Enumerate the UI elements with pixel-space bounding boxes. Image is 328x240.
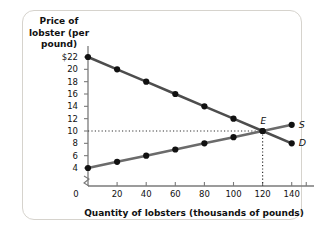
data-point-D <box>85 54 91 60</box>
data-point-S <box>230 134 236 140</box>
x-tick-label: 40 <box>134 190 158 199</box>
data-point-D <box>201 103 207 109</box>
data-point-D <box>172 91 178 97</box>
curve-label-D: D <box>299 137 306 148</box>
x-tick-label: 120 <box>251 190 275 199</box>
data-point-S <box>85 165 91 171</box>
origin-label: 0 <box>64 190 88 199</box>
x-tick-label: 100 <box>222 190 246 199</box>
y-tick-label: 6 <box>48 152 78 161</box>
data-point-S <box>143 153 149 159</box>
y-tick-label: 20 <box>48 65 78 74</box>
y-tick-label: 4 <box>48 164 78 173</box>
y-tick-label: 18 <box>48 78 78 87</box>
data-point-S <box>201 140 207 146</box>
y-tick-label: 12 <box>48 115 78 124</box>
data-point-D <box>289 140 295 146</box>
data-point-S <box>114 159 120 165</box>
data-point-D <box>143 79 149 85</box>
y-tick-label: 16 <box>48 90 78 99</box>
x-tick-label: 80 <box>192 190 216 199</box>
curve-label-S: S <box>299 119 305 130</box>
equilibrium-label: E <box>261 116 267 126</box>
y-tick-label: 14 <box>48 102 78 111</box>
data-point-D <box>114 66 120 72</box>
data-point-S <box>260 128 266 134</box>
y-tick-label: 10 <box>48 127 78 136</box>
y-tick-label: 8 <box>48 139 78 148</box>
data-point-S <box>172 146 178 152</box>
data-point-D <box>230 116 236 122</box>
y-tick-label: $22 <box>48 53 78 62</box>
x-tick-label: 60 <box>163 190 187 199</box>
data-point-S <box>289 122 295 128</box>
x-tick-label: 20 <box>105 190 129 199</box>
x-tick-label: 140 <box>280 190 304 199</box>
